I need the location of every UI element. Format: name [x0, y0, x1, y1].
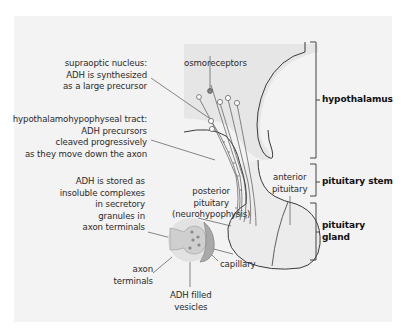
- label-posterior-pituitary: posterior pituitary (neurohypophysis): [172, 186, 250, 221]
- label-supraoptic: supraoptic nucleus: ADH is synthesized a…: [63, 58, 147, 93]
- label-osmoreceptors: osmoreceptors: [184, 58, 247, 70]
- label-capillary: capillary: [220, 259, 256, 271]
- label-tract: hypothalamohypophyseal tract: ADH precur…: [13, 114, 147, 160]
- axon-terminal-inset: [168, 218, 214, 262]
- label-anterior-pituitary: anterior pituitary: [272, 172, 307, 195]
- bracket-label-pituitary-gland: pituitary gland: [322, 220, 365, 243]
- osmoreceptor-cell: [208, 89, 213, 94]
- label-storage: ADH is stored as insoluble complexes in …: [60, 176, 145, 234]
- bracket-label-hypothalamus: hypothalamus: [322, 94, 393, 106]
- bracket-label-pituitary-stem: pituitary stem: [322, 176, 393, 188]
- label-axon-terminals: axon terminals: [114, 264, 153, 287]
- label-vesicles: ADH filled vesicles: [170, 290, 212, 313]
- pituitary-diagram: [0, 0, 406, 336]
